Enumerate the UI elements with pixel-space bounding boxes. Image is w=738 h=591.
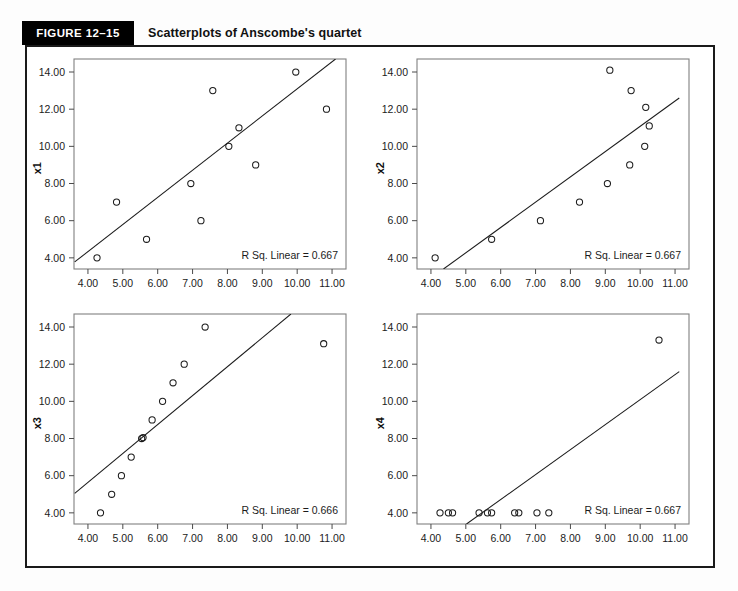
x-tick-label: 10.00: [627, 277, 653, 289]
x-tick-label: 5.00: [113, 532, 134, 544]
y-tick-label: 14.00: [382, 321, 408, 333]
x-tick-label: 8.00: [560, 532, 581, 544]
x-tick-label: 11.00: [662, 532, 688, 544]
y-tick-label: 12.00: [39, 358, 65, 370]
y-tick-label: 10.00: [382, 140, 408, 152]
y-axis-title: x1: [31, 162, 43, 174]
scatter-svg-x2: 4.006.008.0010.0012.0014.004.005.006.007…: [370, 47, 717, 315]
x-tick-label: 4.00: [421, 277, 442, 289]
y-tick-label: 6.00: [388, 469, 409, 481]
x-tick-label: 10.00: [284, 277, 310, 289]
y-tick-label: 6.00: [45, 214, 66, 226]
y-tick-label: 4.00: [388, 252, 409, 264]
scatterplot-panel-x2: 4.006.008.0010.0012.0014.004.005.006.007…: [370, 47, 717, 315]
x-tick-label: 6.00: [147, 277, 168, 289]
x-tick-label: 7.00: [525, 277, 546, 289]
y-tick-label: 12.00: [382, 358, 408, 370]
r-squared-annotation: R Sq. Linear = 0.666: [241, 504, 338, 516]
y-tick-label: 10.00: [382, 395, 408, 407]
y-tick-label: 4.00: [45, 252, 66, 264]
y-tick-label: 8.00: [388, 177, 409, 189]
y-axis-title: x3: [31, 417, 43, 429]
y-tick-label: 8.00: [388, 432, 409, 444]
x-tick-label: 8.00: [217, 532, 238, 544]
x-tick-label: 5.00: [456, 532, 477, 544]
r-squared-annotation: R Sq. Linear = 0.667: [584, 249, 681, 261]
x-tick-label: 9.00: [595, 532, 616, 544]
x-tick-label: 4.00: [78, 277, 99, 289]
x-tick-label: 5.00: [113, 277, 134, 289]
y-tick-label: 4.00: [388, 507, 409, 519]
x-tick-label: 11.00: [319, 532, 345, 544]
scatterplot-panel-x1: 4.006.008.0010.0012.0014.004.005.006.007…: [27, 47, 374, 315]
figure-border-frame: 4.006.008.0010.0012.0014.004.005.006.007…: [25, 45, 715, 568]
x-tick-label: 11.00: [662, 277, 688, 289]
y-tick-label: 12.00: [39, 103, 65, 115]
x-tick-label: 9.00: [595, 277, 616, 289]
x-tick-label: 7.00: [525, 532, 546, 544]
y-tick-label: 8.00: [45, 432, 66, 444]
r-squared-annotation: R Sq. Linear = 0.667: [584, 504, 681, 516]
x-tick-label: 6.00: [490, 532, 511, 544]
plot-area-box: [417, 314, 689, 524]
figure-root: FIGURE 12–15 Scatterplots of Anscombe's …: [0, 0, 738, 591]
y-tick-label: 14.00: [39, 321, 65, 333]
y-tick-label: 4.00: [45, 507, 66, 519]
x-tick-label: 9.00: [252, 532, 273, 544]
y-tick-label: 6.00: [388, 214, 409, 226]
x-tick-label: 9.00: [252, 277, 273, 289]
scatter-svg-x4: 4.006.008.0010.0012.0014.004.005.006.007…: [370, 302, 717, 570]
x-tick-label: 10.00: [627, 532, 653, 544]
y-tick-label: 8.00: [45, 177, 66, 189]
x-tick-label: 10.00: [284, 532, 310, 544]
y-tick-label: 14.00: [382, 66, 408, 78]
r-squared-annotation: R Sq. Linear = 0.667: [241, 249, 338, 261]
x-tick-label: 7.00: [182, 532, 203, 544]
scatter-svg-x3: 4.006.008.0010.0012.0014.004.005.006.007…: [27, 302, 374, 570]
y-tick-label: 10.00: [39, 395, 65, 407]
y-tick-label: 6.00: [45, 469, 66, 481]
plot-area-box: [417, 59, 689, 269]
y-axis-title: x4: [374, 416, 386, 429]
y-tick-label: 12.00: [382, 103, 408, 115]
x-tick-label: 7.00: [182, 277, 203, 289]
y-tick-label: 10.00: [39, 140, 65, 152]
x-tick-label: 8.00: [217, 277, 238, 289]
x-tick-label: 4.00: [78, 532, 99, 544]
x-tick-label: 8.00: [560, 277, 581, 289]
scatterplot-panel-x3: 4.006.008.0010.0012.0014.004.005.006.007…: [27, 302, 374, 570]
x-tick-label: 6.00: [490, 277, 511, 289]
y-tick-label: 14.00: [39, 66, 65, 78]
x-tick-label: 5.00: [456, 277, 477, 289]
figure-title: Scatterplots of Anscombe's quartet: [148, 21, 362, 45]
scatter-svg-x1: 4.006.008.0010.0012.0014.004.005.006.007…: [27, 47, 374, 315]
figure-number-badge: FIGURE 12–15: [22, 21, 134, 45]
x-tick-label: 6.00: [147, 532, 168, 544]
figure-header: FIGURE 12–15 Scatterplots of Anscombe's …: [22, 21, 716, 45]
scatterplot-panel-x4: 4.006.008.0010.0012.0014.004.005.006.007…: [370, 302, 717, 570]
x-tick-label: 4.00: [421, 532, 442, 544]
y-axis-title: x2: [374, 162, 386, 174]
x-tick-label: 11.00: [319, 277, 345, 289]
